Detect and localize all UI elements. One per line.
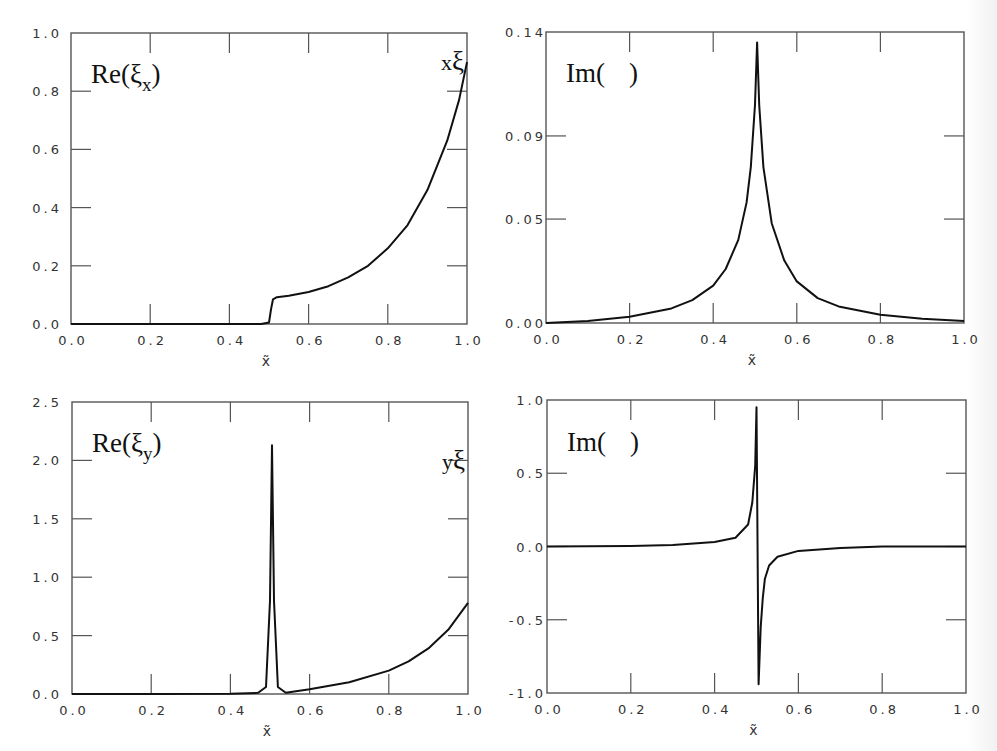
x-tick-label: 0.4: [217, 333, 247, 348]
x-axis-label: x̃: [262, 353, 270, 369]
y-tick-label: 0.0: [32, 687, 62, 702]
y-tick-label: -0.5: [509, 613, 546, 628]
x-tick-label: 0.0: [58, 333, 88, 348]
x-tick-label: 0.0: [533, 332, 563, 347]
y-tick-label: 0.5: [516, 466, 546, 481]
x-tick-label: 0.0: [59, 703, 89, 718]
x-tick-label: 0.6: [784, 332, 814, 347]
y-tick-label: 1.0: [32, 26, 62, 41]
x-tick-label: 0.8: [375, 333, 405, 348]
x-tick-label: 0.0: [534, 702, 564, 717]
x-tick-label: 0.4: [702, 702, 732, 717]
y-tick-label: 0.0: [32, 317, 62, 332]
y-tick-label: 0.0: [516, 540, 546, 555]
data-curve: [547, 407, 966, 684]
x-tick-label: 1.0: [953, 702, 983, 717]
panel-im-xi-x: 0.00.20.40.60.81.00.000.050.090.14x̃Im(): [505, 25, 981, 368]
y-tick-label: 0.05: [505, 212, 546, 227]
x-tick-label: 0.6: [296, 333, 326, 348]
x-tick-label: 1.0: [455, 703, 485, 718]
x-axis-label: x̃: [748, 352, 756, 368]
x-axis-label: x̃: [263, 723, 271, 739]
panel-im-xi-y: 0.00.20.40.60.81.0-1.0-0.50.00.51.0x̃Im(…: [509, 393, 983, 738]
y-tick-label: 0.6: [32, 142, 62, 157]
panel-label: Re(ξx): [91, 59, 161, 95]
panel-label: Im(): [567, 427, 639, 457]
y-tick-label: -1.0: [509, 686, 546, 701]
x-tick-label: 0.2: [617, 332, 647, 347]
y-tick-label: 1.5: [32, 512, 62, 527]
x-tick-label: 0.6: [786, 702, 816, 717]
x-tick-label: 0.4: [218, 703, 248, 718]
x-tick-label: 1.0: [951, 332, 981, 347]
y-tick-label: 0.14: [505, 25, 546, 40]
y-tick-label: 0.00: [505, 316, 546, 331]
data-curve: [72, 445, 468, 694]
y-tick-label: 2.5: [32, 395, 62, 410]
x-tick-label: 0.4: [700, 332, 730, 347]
y-tick-label: 1.0: [516, 393, 546, 408]
x-tick-label: 0.2: [138, 703, 168, 718]
panel-re-xi-x: 0.00.20.40.60.81.00.00.20.40.60.81.0x̃Re…: [32, 26, 484, 369]
x-tick-label: 0.8: [869, 702, 899, 717]
y-tick-label: 0.09: [505, 129, 546, 144]
panel-re-xi-y: 0.00.20.40.60.81.00.00.51.01.52.02.5x̃Re…: [32, 395, 485, 739]
x-tick-label: 0.6: [297, 703, 327, 718]
x-tick-label: 0.8: [376, 703, 406, 718]
panel-label: Re(ξy): [92, 428, 162, 464]
panel-label: Im(): [566, 58, 638, 88]
y-tick-label: 1.0: [32, 570, 62, 585]
x-axis-label: x̃: [749, 722, 757, 738]
x-tick-label: 0.2: [137, 333, 167, 348]
figure: 0.00.20.40.60.81.00.00.20.40.60.81.0x̃Re…: [0, 0, 997, 751]
data-curve: [71, 62, 467, 324]
x-tick-label: 0.2: [618, 702, 648, 717]
x-tick-label: 1.0: [454, 333, 484, 348]
corner-label: yξ: [442, 445, 465, 475]
y-tick-label: 0.5: [32, 629, 62, 644]
y-tick-label: 0.2: [32, 259, 62, 274]
y-tick-label: 0.8: [32, 84, 62, 99]
data-curve: [546, 42, 964, 323]
corner-label: xξ: [441, 46, 464, 76]
x-tick-label: 0.8: [868, 332, 898, 347]
y-tick-label: 0.4: [32, 201, 62, 216]
y-tick-label: 2.0: [32, 453, 62, 468]
